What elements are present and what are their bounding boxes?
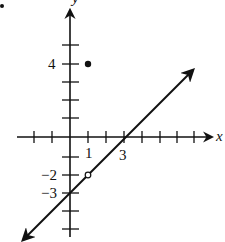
coordinate-graph: y x 1 3 — [0, 0, 225, 242]
filled-point — [85, 61, 91, 67]
x-axis-label: x — [215, 128, 223, 144]
graph-line — [23, 70, 193, 240]
bullet-dot — [0, 4, 4, 8]
y-axis-label: y — [70, 0, 79, 6]
y-axis — [62, 10, 79, 237]
open-point-hole — [85, 172, 91, 178]
x-axis — [17, 131, 212, 143]
y-tick-label-neg3: −3 — [41, 185, 57, 201]
y-tick-label-4: 4 — [48, 56, 56, 72]
x-tick-label-3: 3 — [119, 147, 127, 163]
x-tick-label-1: 1 — [85, 145, 93, 161]
y-tick-label-neg2: −2 — [41, 167, 57, 183]
